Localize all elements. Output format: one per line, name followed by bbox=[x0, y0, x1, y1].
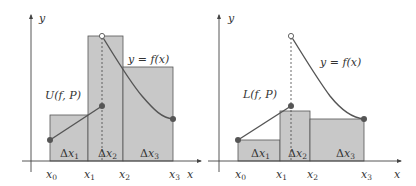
point-x0 bbox=[47, 137, 53, 143]
y-axis-label: y bbox=[227, 12, 235, 25]
open-point bbox=[288, 33, 293, 38]
tick-x2: x2 bbox=[119, 168, 130, 182]
curve-label: y = f(x) bbox=[127, 53, 169, 66]
tick-x0: x0 bbox=[46, 168, 57, 182]
point-linear-end bbox=[99, 103, 105, 109]
tick-x1: x1 bbox=[276, 168, 287, 182]
point-x0 bbox=[235, 137, 241, 143]
tick-x3: x3 bbox=[169, 168, 180, 182]
upper-sum-panel: y x y = f(x) U(f, P) Δx1 Δx2 Δx3 x0 x1 x… bbox=[22, 12, 201, 182]
function-curve-piece bbox=[291, 36, 364, 119]
point-x3 bbox=[170, 116, 176, 122]
tick-x0: x0 bbox=[235, 168, 246, 182]
lower-sum-label: L(f, P) bbox=[242, 88, 277, 101]
x-axis-label: x bbox=[394, 168, 401, 181]
tick-x2: x2 bbox=[307, 168, 318, 182]
y-axis-label: y bbox=[38, 12, 46, 25]
tick-x1: x1 bbox=[84, 168, 95, 182]
open-point bbox=[99, 33, 104, 38]
curve-label: y = f(x) bbox=[319, 56, 361, 69]
x-axis-label: x bbox=[187, 168, 194, 181]
point-x3 bbox=[361, 116, 367, 122]
point-linear-end bbox=[288, 103, 294, 109]
tick-x3: x3 bbox=[361, 168, 372, 182]
upper-sum-label: U(f, P) bbox=[45, 89, 81, 102]
upper-rect-2 bbox=[88, 36, 123, 161]
lower-sum-panel: y x y = f(x) L(f, P) Δx1 Δx2 Δx3 x0 x1 x… bbox=[208, 12, 401, 182]
riemann-sums-diagram: y x y = f(x) U(f, P) Δx1 Δx2 Δx3 x0 x1 x… bbox=[0, 0, 416, 186]
